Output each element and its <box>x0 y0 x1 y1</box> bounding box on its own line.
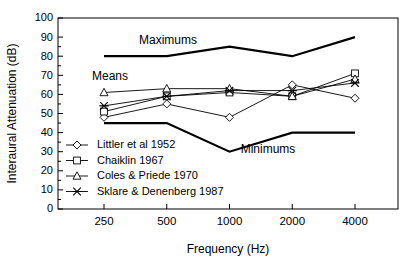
legend-label-littler-et-al-1952: Littler et al 1952 <box>97 138 175 150</box>
x-axis-title: Frequency (Hz) <box>187 242 270 256</box>
y-tick-label: 60 <box>41 88 53 100</box>
legend-marker-littler-et-al-1952 <box>73 141 81 149</box>
legend-label-sklare-denenberg-1987: Sklare & Denenberg 1987 <box>97 185 224 197</box>
y-axis-title: Interaural Attenuation (dB) <box>5 43 19 183</box>
interaural-attenuation-chart: 0102030405060708090100250500100020004000… <box>0 0 410 264</box>
legend-marker-coles-priede-1970 <box>73 172 81 179</box>
y-tick-label: 30 <box>41 145 53 157</box>
data-point-littler-et-al-1952 <box>163 100 171 108</box>
annotation-minimums: Minimums <box>241 142 296 156</box>
y-tick-label: 50 <box>41 107 53 119</box>
data-point-coles-priede-1970 <box>163 84 171 91</box>
annotation-means: Means <box>92 69 128 83</box>
legend-marker-sklare-denenberg-1987 <box>72 188 81 196</box>
x-tick-label: 2000 <box>279 215 305 227</box>
x-tick-label: 1000 <box>217 215 243 227</box>
y-tick-label: 20 <box>41 164 53 176</box>
data-point-chaiklin-1967 <box>101 108 108 115</box>
data-point-littler-et-al-1952 <box>351 94 359 102</box>
x-tick-label: 500 <box>157 215 176 227</box>
legend-label-coles-priede-1970: Coles & Priede 1970 <box>97 169 198 181</box>
y-tick-label: 40 <box>41 126 53 138</box>
x-tick-label: 4000 <box>342 215 368 227</box>
y-tick-label: 70 <box>41 69 53 81</box>
chart-figure: 0102030405060708090100250500100020004000… <box>0 0 410 264</box>
x-tick-label: 250 <box>94 215 113 227</box>
legend-marker-chaiklin-1967 <box>74 157 81 164</box>
y-tick-label: 10 <box>41 183 53 195</box>
data-point-littler-et-al-1952 <box>226 113 234 121</box>
annotation-maximums: Maximums <box>139 33 197 47</box>
legend-label-chaiklin-1967: Chaiklin 1967 <box>97 154 164 166</box>
y-tick-label: 90 <box>41 31 53 43</box>
y-tick-label: 100 <box>35 11 53 23</box>
y-tick-label: 80 <box>41 50 53 62</box>
y-tick-label: 0 <box>47 202 53 214</box>
